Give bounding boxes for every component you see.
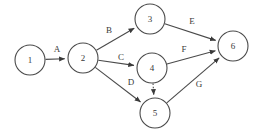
edge-label-e: E <box>189 16 195 26</box>
edge-a <box>45 59 64 60</box>
edge-dummy <box>153 83 154 94</box>
edge-label-b: B <box>106 25 112 35</box>
edge-label-g: G <box>196 79 203 89</box>
edge-label-f: F <box>181 44 186 54</box>
edge-label-a: A <box>54 44 61 54</box>
node-2[interactable]: 2 <box>68 43 98 73</box>
edge-label-c: C <box>118 52 124 62</box>
edge-e <box>165 24 216 41</box>
node-label-3: 3 <box>148 14 153 24</box>
edge-b <box>96 28 134 50</box>
edge-g <box>167 58 219 103</box>
node-label-6: 6 <box>231 41 236 51</box>
node-label-1: 1 <box>28 55 33 65</box>
edge-label-d: D <box>128 77 135 87</box>
node-6[interactable]: 6 <box>218 31 248 61</box>
nodes-layer: 123456 <box>15 4 248 128</box>
graph-canvas: 123456 ABCDEFG <box>0 0 260 134</box>
edge-f <box>167 51 215 64</box>
node-1[interactable]: 1 <box>15 45 45 75</box>
node-label-2: 2 <box>81 53 86 63</box>
node-3[interactable]: 3 <box>135 4 165 34</box>
node-label-4: 4 <box>150 63 155 73</box>
edge-c <box>98 60 134 65</box>
diagram-container: 123456 ABCDEFG <box>0 0 260 134</box>
node-4[interactable]: 4 <box>137 53 167 83</box>
node-label-5: 5 <box>153 108 158 118</box>
node-5[interactable]: 5 <box>140 98 170 128</box>
